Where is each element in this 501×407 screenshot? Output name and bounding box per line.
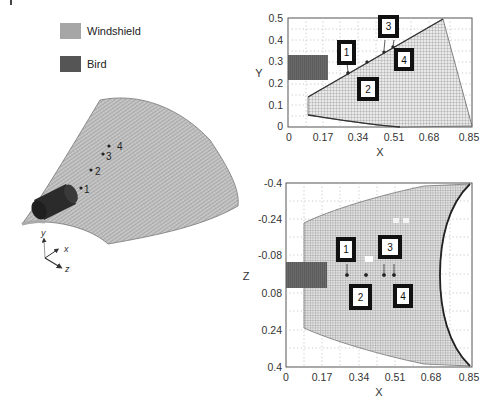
point-label-1: 1 bbox=[84, 184, 90, 195]
axis-triad: y x z bbox=[40, 228, 70, 274]
bottom-chart-x-ticks: 0 0.17 0.34 0.51 0.68 0.85 bbox=[283, 371, 479, 383]
corner-mark bbox=[10, 0, 12, 5]
bird-side-profile bbox=[288, 55, 328, 80]
svg-text:0.24: 0.24 bbox=[262, 324, 283, 336]
label-box-2: 2 bbox=[359, 79, 377, 99]
label-box-2: 2 bbox=[351, 286, 370, 308]
label-box-3: 3 bbox=[380, 237, 400, 257]
svg-text:2: 2 bbox=[365, 84, 371, 95]
svg-text:0.34: 0.34 bbox=[348, 131, 369, 143]
svg-text:0.51: 0.51 bbox=[385, 371, 406, 383]
svg-text:4: 4 bbox=[400, 291, 406, 302]
x-axis-label: x bbox=[63, 244, 69, 254]
z-axis-arrow-icon bbox=[45, 258, 60, 267]
top-chart: 1 3 4 2 0.5 0.4 0.3 0.2 0.1 0 0 bbox=[255, 12, 479, 158]
bird-top-planform bbox=[286, 262, 327, 288]
label-box-4: 4 bbox=[395, 286, 411, 306]
bottom-chart-x-label: X bbox=[375, 386, 383, 398]
svg-text:0.68: 0.68 bbox=[419, 131, 440, 143]
svg-text:1: 1 bbox=[344, 47, 350, 58]
label-box-1: 1 bbox=[339, 42, 354, 63]
bottom-chart-z-label: Z bbox=[243, 270, 250, 282]
figure-canvas: 1 2 3 4 y x z bbox=[0, 0, 501, 407]
svg-text:0.85: 0.85 bbox=[459, 131, 480, 143]
x-axis-arrow-icon bbox=[45, 250, 57, 258]
y-axis-label: y bbox=[40, 228, 46, 238]
svg-text:0.5: 0.5 bbox=[268, 12, 283, 24]
point-label-2: 2 bbox=[95, 166, 101, 177]
svg-text:0.3: 0.3 bbox=[268, 55, 283, 67]
svg-text:0.4: 0.4 bbox=[268, 34, 283, 46]
label-box-3: 3 bbox=[380, 17, 397, 36]
label-box-4: 4 bbox=[396, 50, 412, 69]
svg-text:0.34: 0.34 bbox=[349, 371, 370, 383]
svg-text:0.68: 0.68 bbox=[421, 371, 442, 383]
bottom-chart-y-ticks: -0.4 -0.24 -0.08 0.08 0.24 0.4 bbox=[258, 177, 282, 373]
windshield-3d-view: 1 2 3 4 y x z bbox=[22, 98, 238, 274]
svg-text:-0.08: -0.08 bbox=[258, 249, 282, 261]
svg-text:0: 0 bbox=[286, 131, 292, 143]
svg-text:3: 3 bbox=[387, 242, 393, 253]
svg-text:-0.4: -0.4 bbox=[264, 177, 282, 189]
svg-text:0.4: 0.4 bbox=[267, 361, 282, 373]
z-axis-label: z bbox=[64, 264, 70, 274]
svg-text:4: 4 bbox=[401, 55, 407, 66]
windshield-mesh-3d bbox=[22, 98, 238, 244]
svg-text:0.85: 0.85 bbox=[459, 371, 480, 383]
svg-text:-0.24: -0.24 bbox=[258, 213, 282, 225]
y-axis-arrow-icon bbox=[44, 240, 45, 258]
top-chart-x-label: X bbox=[376, 146, 384, 158]
point-label-3: 3 bbox=[106, 151, 112, 162]
svg-text:0: 0 bbox=[283, 371, 289, 383]
point-label-4: 4 bbox=[117, 141, 123, 152]
svg-text:1: 1 bbox=[343, 244, 349, 255]
top-chart-y-ticks: 0.5 0.4 0.3 0.2 0.1 0 bbox=[268, 12, 283, 132]
svg-text:0.2: 0.2 bbox=[268, 77, 283, 89]
svg-text:0.08: 0.08 bbox=[262, 287, 283, 299]
svg-text:0.17: 0.17 bbox=[312, 371, 333, 383]
top-chart-y-label: Y bbox=[255, 67, 263, 79]
svg-text:0: 0 bbox=[277, 120, 283, 132]
svg-text:2: 2 bbox=[358, 292, 364, 303]
svg-text:0.51: 0.51 bbox=[384, 131, 405, 143]
bottom-chart: 1 3 2 4 -0.4 -0.24 -0.08 0.08 0.24 0.4 bbox=[243, 177, 480, 398]
label-box-1: 1 bbox=[338, 239, 354, 260]
svg-text:3: 3 bbox=[386, 21, 392, 32]
top-chart-x-ticks: 0 0.17 0.34 0.51 0.68 0.85 bbox=[286, 131, 479, 143]
svg-text:0.17: 0.17 bbox=[313, 131, 334, 143]
svg-text:0.1: 0.1 bbox=[268, 99, 283, 111]
